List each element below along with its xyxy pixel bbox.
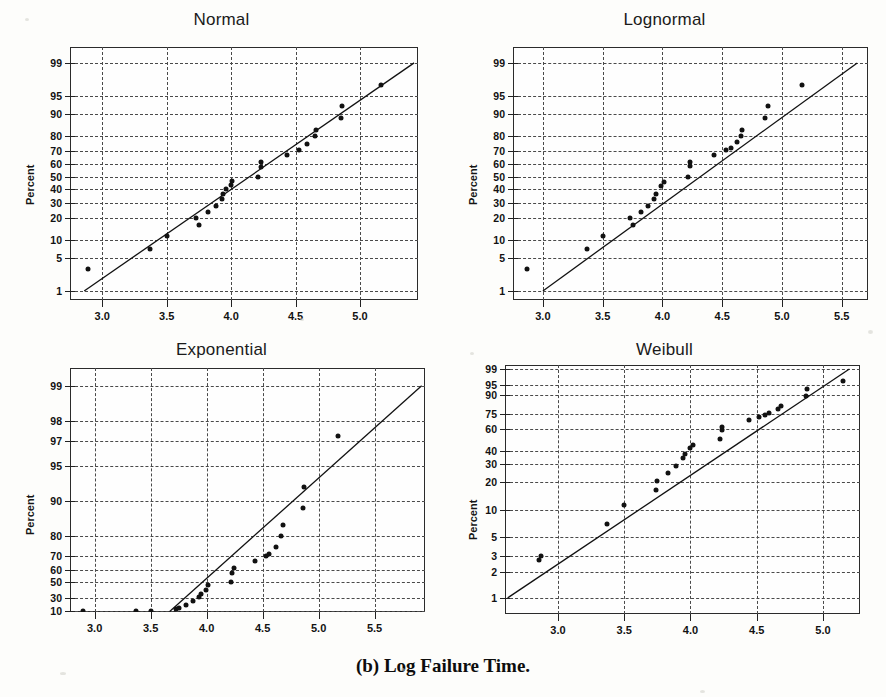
y-tick-label: 80 [469,130,505,142]
y-tick-label: 99 [26,57,62,69]
data-point [256,174,261,179]
data-point [525,267,530,272]
y-tick-label: 95 [26,90,62,102]
y-tick-label: 98 [26,415,62,427]
data-point [205,582,210,587]
y-tick-label: 60 [469,158,505,170]
data-point [223,187,228,192]
x-tick-label: 3.5 [143,622,158,634]
y-tick-mark [65,501,75,502]
x-tick-label: 5.0 [815,624,830,636]
y-tick-mark [65,386,75,387]
y-tick-label: 80 [26,530,62,542]
x-tick-label: 3.5 [595,310,610,322]
y-tick-mark [508,63,518,64]
y-tick-label: 50 [26,171,62,183]
data-point [335,433,340,438]
y-tick-label: 10 [469,234,505,246]
x-tick-label: 4.0 [223,310,238,322]
x-tick-mark [95,612,96,619]
x-tick-label: 5.5 [834,310,849,322]
y-tick-label: 70 [26,550,62,562]
plot-area-lognormal: 1510203040506070809095993.03.54.04.55.05… [513,47,868,300]
data-point [720,424,725,429]
x-tick-label: 4.5 [749,624,764,636]
y-tick-mark [508,291,518,292]
data-point [221,191,226,196]
y-tick-mark [508,189,518,190]
x-tick-mark [823,614,824,621]
data-point [297,147,302,152]
data-point [652,197,657,202]
y-tick-mark [508,218,518,219]
y-tick-label: 5 [469,252,505,264]
data-point [683,451,688,456]
data-point [600,233,605,238]
y-tick-label: 60 [461,423,497,435]
x-tick-label: 4.0 [655,310,670,322]
plot-inner [513,47,868,300]
fit-line [70,47,418,300]
data-point [280,522,285,527]
x-tick-mark [543,300,544,307]
x-tick-label: 3.0 [535,310,550,322]
y-tick-mark [508,151,518,152]
x-tick-label: 5.0 [352,310,367,322]
y-tick-mark [65,421,75,422]
data-point [685,174,690,179]
y-tick-label: 3 [461,550,497,562]
data-point [81,609,86,612]
data-point [312,134,317,139]
y-tick-label: 60 [26,158,62,170]
data-point [258,165,263,170]
y-tick-label: 10 [461,504,497,516]
x-tick-mark [782,300,783,307]
x-tick-mark [263,612,264,619]
x-tick-mark [842,300,843,307]
data-point [805,387,810,392]
y-tick-mark [508,136,518,137]
data-point [196,222,201,227]
x-tick-mark [360,300,361,307]
panel-weibull: Weibull Percent 12351020304060759095993.… [443,340,886,645]
y-tick-mark [500,482,510,483]
x-tick-label: 4.0 [683,624,698,636]
y-tick-label: 20 [461,476,497,488]
x-tick-mark [207,612,208,619]
y-tick-mark [508,258,518,259]
data-point [803,394,808,399]
data-point [763,116,768,121]
x-tick-mark [558,614,559,621]
data-point [538,554,543,559]
data-point [746,418,751,423]
x-tick-label: 3.5 [617,624,632,636]
y-tick-mark [500,537,510,538]
y-tick-mark [65,63,75,64]
data-point [765,104,770,109]
data-point [665,470,670,475]
y-tick-mark [65,164,75,165]
y-tick-label: 1 [469,285,505,297]
y-tick-label: 30 [469,197,505,209]
data-point [302,484,307,489]
data-point [687,159,692,164]
x-tick-mark [102,300,103,307]
y-tick-label: 90 [26,495,62,507]
x-tick-label: 3.0 [550,624,565,636]
data-point [655,478,660,483]
data-point [604,521,609,526]
y-tick-label: 40 [26,183,62,195]
fit-line [505,365,860,614]
data-point [338,116,343,121]
y-tick-label: 95 [469,90,505,102]
data-point [630,222,635,227]
y-tick-label: 90 [26,108,62,120]
y-tick-label: 1 [26,285,62,297]
data-point [622,502,627,507]
y-tick-mark [500,414,510,415]
data-point [800,82,805,87]
panel-title-weibull: Weibull [443,340,886,360]
scan-artifact [60,672,66,675]
y-tick-mark [65,441,75,442]
y-tick-label: 99 [461,363,497,375]
